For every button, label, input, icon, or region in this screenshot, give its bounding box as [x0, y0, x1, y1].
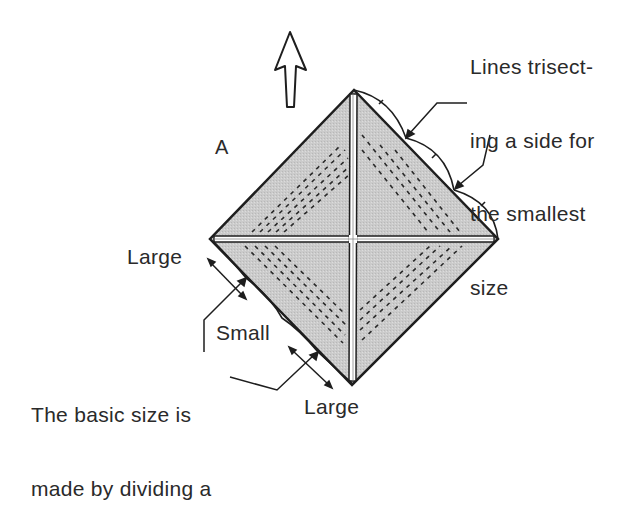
annotation-line: made by dividing a: [31, 477, 213, 502]
annotation-line: the smallest: [470, 202, 594, 227]
annotation-line: size: [470, 276, 594, 301]
annotation-line: The basic size is: [31, 403, 213, 428]
up-arrow-icon: [275, 32, 306, 107]
label-small: Small: [216, 321, 270, 345]
annotation-top-right: Lines trisect- ing a side for the smalle…: [470, 6, 594, 349]
label-large-bottom: Large: [304, 395, 359, 419]
label-large-left: Large: [127, 245, 182, 269]
annotation-line: ing a side for: [470, 129, 594, 154]
figure-label: A: [215, 135, 229, 159]
origami-diagram: A Lines trisect- ing a side for the smal…: [0, 0, 627, 525]
annotation-bottom-left: The basic size is made by dividing a sid…: [31, 354, 213, 525]
annotation-line: Lines trisect-: [470, 55, 594, 80]
